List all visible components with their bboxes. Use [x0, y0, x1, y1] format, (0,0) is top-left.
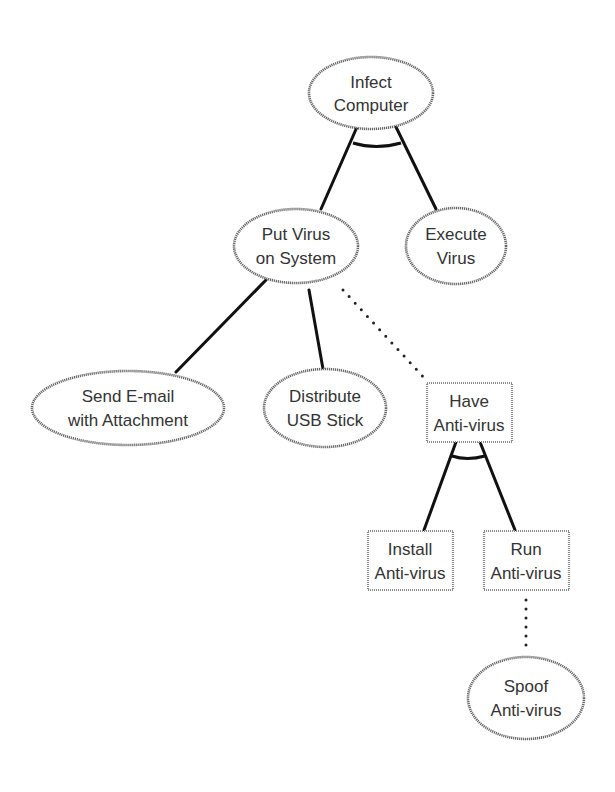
node-label-line2: Anti-virus [375, 564, 446, 583]
node-distribute-usb-stick: Distribute USB Stick [264, 369, 386, 447]
node-label-line1: Execute [425, 225, 486, 244]
node-label-line2: Anti-virus [434, 416, 505, 435]
node-label-line1: Send E-mail [82, 387, 175, 406]
ellipse-shape [309, 57, 433, 129]
ellipse-shape [264, 369, 386, 447]
ellipse-shape [468, 657, 584, 739]
node-label-line2: Computer [334, 96, 409, 115]
edge-have-to-install [424, 442, 456, 530]
node-label-line2: with Attachment [67, 411, 188, 430]
node-label-line2: Anti-virus [491, 701, 562, 720]
node-label-line1: Distribute [289, 387, 361, 406]
edge-put-virus-to-have-antivirus [343, 290, 428, 382]
ellipse-shape [234, 209, 358, 283]
ellipse-shape [406, 208, 506, 284]
edge-have-to-run [480, 442, 515, 530]
node-label-line1: Infect [350, 73, 392, 92]
node-label-line2: Virus [437, 249, 475, 268]
node-spoof-anti-virus: Spoof Anti-virus [468, 657, 584, 739]
node-send-email-with-attachment: Send E-mail with Attachment [32, 371, 224, 445]
and-arc-have-antivirus [452, 456, 485, 459]
node-label-line2: USB Stick [287, 411, 364, 430]
node-run-anti-virus: Run Anti-virus [484, 531, 569, 590]
edge-infect-to-put-virus [321, 127, 357, 209]
node-label-line1: Have [449, 392, 489, 411]
ellipse-shape [32, 371, 224, 445]
node-label-line1: Install [388, 540, 432, 559]
node-install-anti-virus: Install Anti-virus [368, 531, 453, 590]
edge-infect-to-execute [396, 127, 436, 209]
edge-put-virus-to-usb [309, 290, 323, 369]
attack-tree-diagram: Infect Computer Put Virus on System Exec… [0, 0, 615, 792]
node-label-line2: on System [256, 249, 336, 268]
node-execute-virus: Execute Virus [406, 208, 506, 284]
node-infect-computer: Infect Computer [309, 57, 433, 129]
edge-put-virus-to-send-email [176, 280, 266, 372]
node-have-anti-virus: Have Anti-virus [427, 383, 512, 442]
and-arc-infect [353, 143, 401, 147]
node-label-line1: Spoof [504, 677, 549, 696]
node-label-line2: Anti-virus [491, 564, 562, 583]
node-put-virus-on-system: Put Virus on System [234, 209, 358, 283]
node-label-line1: Run [510, 540, 541, 559]
node-label-line1: Put Virus [262, 225, 331, 244]
